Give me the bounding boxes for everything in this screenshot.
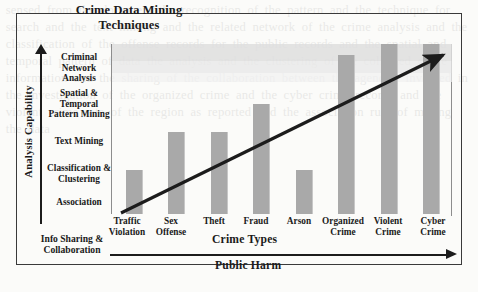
x-tick-theft: Theft: [191, 216, 237, 227]
scan-shading-band: [112, 61, 452, 73]
info-sharing-line2: Collaboration: [30, 244, 114, 255]
bar-organized-crime: [338, 55, 355, 214]
bar-fraud: [253, 104, 270, 215]
x-tick-sex-offense: Sex Offense: [148, 216, 194, 237]
bar-sex-offense: [168, 132, 185, 214]
x-tick-line: Crime: [409, 227, 457, 238]
y-tick-text-mining: Text Mining: [46, 136, 112, 147]
info-sharing-collaboration-label: Info Sharing & Collaboration: [30, 233, 114, 255]
bar-traffic-violation: [126, 170, 143, 214]
x-tick-violent-crime: Violent Crime: [364, 216, 412, 237]
public-harm-axis-line: [110, 254, 448, 256]
x-axis-title: Crime Types: [212, 233, 277, 246]
y-tick-line: Text Mining: [46, 136, 112, 147]
info-sharing-line1: Info Sharing &: [30, 233, 114, 244]
bar-violent-crime: [381, 44, 398, 214]
figure-title: Crime Data Mining Techniques: [34, 3, 224, 33]
x-tick-organized-crime: Organized Crime: [316, 216, 370, 237]
bar-cyber-crime: [423, 44, 440, 214]
scan-shading-band: [112, 44, 452, 61]
scan-shading-band: [112, 73, 452, 82]
x-tick-line: Cyber: [409, 216, 457, 227]
y-tick-line: Classification &: [46, 163, 112, 174]
y-tick-line: Association: [46, 197, 112, 208]
x-axis-secondary-title: Public Harm: [215, 259, 281, 272]
x-tick-line: Crime: [364, 227, 412, 238]
y-tick-line: Spatial &: [46, 88, 112, 99]
y-tick-line: Clustering: [46, 174, 112, 185]
figure-title-line1: Crime Data Mining: [34, 3, 224, 18]
x-tick-line: Sex: [148, 216, 194, 227]
y-tick-line: Pattern Mining: [46, 109, 112, 120]
x-tick-line: Theft: [191, 216, 237, 227]
x-tick-line: Organized: [316, 216, 370, 227]
y-tick-line: Network Analysis: [46, 63, 112, 84]
x-tick-line: Crime: [316, 227, 370, 238]
x-tick-line: Violent: [364, 216, 412, 227]
bar-arson: [296, 170, 313, 214]
public-harm-arrowhead: [446, 249, 457, 259]
y-tick-classification-clustering: Classification & Clustering: [46, 163, 112, 184]
x-tick-line: Traffic: [104, 216, 150, 227]
plot-area: [112, 44, 452, 214]
y-axis-title: Analysis Capability: [23, 66, 34, 198]
y-tick-line: Criminal: [46, 52, 112, 63]
figure-title-line2: Techniques: [34, 18, 224, 33]
y-tick-criminal-network-analysis: Criminal Network Analysis: [46, 52, 112, 84]
y-tick-line: Temporal: [46, 99, 112, 110]
y-tick-association: Association: [46, 197, 112, 208]
x-tick-cyber-crime: Cyber Crime: [409, 216, 457, 237]
x-tick-line: Fraud: [233, 216, 279, 227]
y-axis-line: [40, 52, 42, 224]
bar-theft: [211, 132, 228, 214]
x-tick-fraud: Fraud: [233, 216, 279, 227]
y-tick-spatial-temporal-pattern-mining: Spatial & Temporal Pattern Mining: [46, 88, 112, 120]
x-tick-line: Offense: [148, 227, 194, 238]
